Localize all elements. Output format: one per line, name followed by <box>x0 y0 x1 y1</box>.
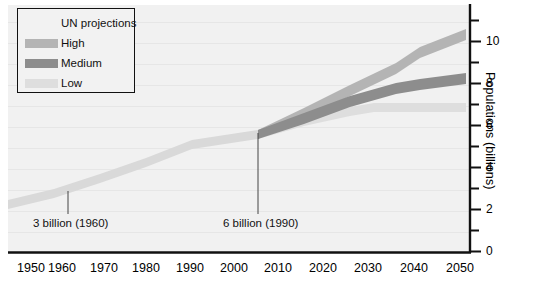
gridline <box>8 169 470 170</box>
gridline <box>8 127 470 128</box>
legend-label-low: Low <box>61 77 82 89</box>
x-tick-label-2050: 2050 <box>437 262 483 275</box>
x-tick-label-1970: 1970 <box>81 262 127 275</box>
x-tick-label-2030: 2030 <box>345 262 391 275</box>
x-tick-label-1990: 1990 <box>167 262 213 275</box>
x-tick-label-1980: 1980 <box>123 262 169 275</box>
x-tick-label-2040: 2040 <box>391 262 437 275</box>
y-axis-major-ticks <box>470 42 481 252</box>
population-projection-chart: 10 8 6 4 2 0 Populations (billions) 1950… <box>0 0 534 283</box>
y-axis-minor-ticks <box>470 21 479 231</box>
gridline <box>8 232 470 233</box>
legend-title: UN projections <box>61 17 136 29</box>
gridline <box>8 190 470 191</box>
y-tick-label-2: 2 <box>486 203 493 215</box>
y-tick-label-0: 0 <box>486 245 493 257</box>
y-axis-title: Populations (billions) <box>483 72 497 190</box>
gridline <box>8 148 470 149</box>
legend-swatch-low <box>25 79 58 88</box>
annotation-6-billion: 6 billion (1990) <box>223 218 298 230</box>
y-tick-label-10: 10 <box>486 35 499 47</box>
x-tick-label-1960: 1960 <box>39 262 85 275</box>
gridline <box>8 211 470 212</box>
gridline <box>8 106 470 107</box>
legend-label-medium: Medium <box>61 57 102 69</box>
annotation-3-billion: 3 billion (1960) <box>33 218 108 230</box>
legend-label-high: High <box>61 37 85 49</box>
x-tick-label-2000: 2000 <box>211 262 257 275</box>
legend: UN projections High Medium Low <box>17 8 135 93</box>
legend-swatch-medium <box>25 59 58 68</box>
legend-swatch-high <box>25 39 58 48</box>
x-tick-label-2010: 2010 <box>255 262 301 275</box>
x-tick-label-2020: 2020 <box>300 262 346 275</box>
